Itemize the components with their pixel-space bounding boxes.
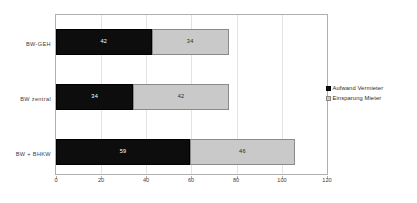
bar-value-label: 34 xyxy=(187,39,194,45)
plot-area: 42 34 34 42 59 46 xyxy=(55,14,328,175)
chart-legend: Aufwand Vermieter Einsparung Mieter xyxy=(326,84,383,104)
x-tick-label-80: 80 xyxy=(233,178,239,184)
category-label-0: BW-GEH xyxy=(26,42,51,48)
bar-row-1: 34 42 xyxy=(56,84,229,110)
x-tick-label-60: 60 xyxy=(188,178,194,184)
legend-item-einsparung-mieter[interactable]: Einsparung Mieter xyxy=(326,94,383,103)
bar-segment-aufwand-vermieter-0[interactable]: 42 xyxy=(56,29,152,55)
x-tick-label-120: 120 xyxy=(322,178,331,184)
bar-segment-einsparung-mieter-2[interactable]: 46 xyxy=(190,139,295,165)
x-tick-label-0: 0 xyxy=(54,178,57,184)
x-tick-label-40: 40 xyxy=(143,178,149,184)
bar-row-2: 59 46 xyxy=(56,139,295,165)
bar-segment-einsparung-mieter-1[interactable]: 42 xyxy=(133,84,229,110)
bar-value-label: 46 xyxy=(239,149,246,155)
bar-segment-aufwand-vermieter-2[interactable]: 59 xyxy=(56,139,190,165)
category-label-2: BW + BHKW xyxy=(16,152,51,158)
x-axis-labels: 0 20 40 60 80 100 120 xyxy=(55,178,328,190)
legend-label: Einsparung Mieter xyxy=(333,96,382,102)
bar-value-label: 59 xyxy=(120,149,127,155)
stacked-bar-chart: BW-GEH BW zentral BW + BHKW 42 34 34 42 xyxy=(0,0,417,203)
legend-item-aufwand-vermieter[interactable]: Aufwand Vermieter xyxy=(326,84,383,93)
bar-segment-aufwand-vermieter-1[interactable]: 34 xyxy=(56,84,133,110)
legend-swatch-black-icon xyxy=(326,86,331,91)
x-tick-label-100: 100 xyxy=(277,178,286,184)
x-tick-label-20: 20 xyxy=(98,178,104,184)
category-label-1: BW zentral xyxy=(20,97,51,103)
bar-segment-einsparung-mieter-0[interactable]: 34 xyxy=(152,29,229,55)
legend-label: Aufwand Vermieter xyxy=(333,86,384,92)
bar-value-label: 42 xyxy=(178,94,185,100)
bar-value-label: 42 xyxy=(100,39,107,45)
bar-row-0: 42 34 xyxy=(56,29,229,55)
category-axis-labels: BW-GEH BW zentral BW + BHKW xyxy=(0,14,55,175)
bar-value-label: 34 xyxy=(91,94,98,100)
legend-swatch-gray-icon xyxy=(326,96,331,101)
